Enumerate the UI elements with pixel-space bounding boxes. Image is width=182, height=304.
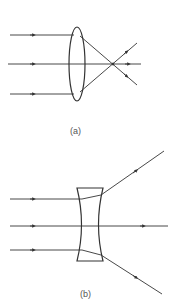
- focal-point: [112, 63, 114, 65]
- panel-a-converging-lens: [8, 27, 141, 101]
- internal-ray-bottom: [82, 250, 101, 255]
- caption-a: (a): [70, 126, 81, 136]
- arrow-icon: [124, 52, 127, 55]
- arrow-icon: [133, 276, 137, 278]
- panel-b-diverging-lens: [10, 151, 168, 294]
- arrow-icon: [124, 74, 127, 77]
- internal-ray-top: [82, 195, 101, 199]
- caption-b: (b): [80, 289, 91, 299]
- refracted-ray-top: [80, 36, 137, 85]
- diverging-ray-top: [101, 151, 164, 195]
- refracted-ray-bottom: [80, 43, 137, 92]
- optics-diagram: [0, 0, 182, 304]
- diverging-ray-bottom: [101, 255, 162, 294]
